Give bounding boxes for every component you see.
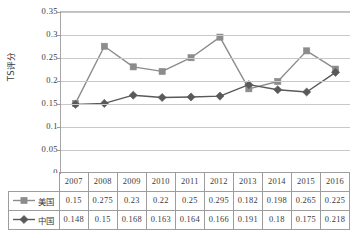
y-axis-tickmark	[57, 35, 61, 36]
data-point-marker	[158, 93, 166, 101]
table-header-row: 2007200820092010201120122013201420152016	[9, 173, 350, 192]
gridline	[61, 81, 350, 82]
gridline	[61, 58, 350, 59]
table-cell-value: 0.18	[262, 211, 291, 230]
gridline	[61, 104, 350, 105]
y-axis-tickmark	[57, 104, 61, 105]
table-cell-value: 0.225	[320, 192, 349, 211]
table-header-year: 2008	[88, 173, 117, 192]
data-point-marker	[187, 93, 195, 101]
table-row: 中国0.1480.150.1680.1630.1640.1660.1910.18…	[9, 211, 350, 230]
y-axis-tick-label: 0.25	[18, 53, 58, 62]
table-cell-value: 0.265	[291, 192, 320, 211]
y-axis-tickmark	[57, 81, 61, 82]
table-header-year: 2011	[175, 173, 204, 192]
y-axis-tick-label: 0.35	[18, 7, 58, 16]
legend-marker	[21, 197, 27, 203]
gridline	[61, 127, 350, 128]
table-cell-value: 0.295	[204, 192, 233, 211]
series-china	[71, 68, 339, 108]
y-axis-tickmark	[57, 12, 61, 13]
legend-item-china[interactable]: 中国	[9, 211, 60, 230]
series-usa	[72, 34, 338, 106]
table-cell-value: 0.23	[117, 192, 146, 211]
table-header-year: 2013	[233, 173, 262, 192]
legend-marker	[20, 215, 28, 223]
table-header-year: 2009	[117, 173, 146, 192]
y-axis-tickmark	[57, 127, 61, 128]
data-point-marker	[129, 91, 137, 99]
table-cell-value: 0.15	[88, 211, 117, 230]
table-cell-value: 0.218	[320, 211, 349, 230]
table-header-year: 2015	[291, 173, 320, 192]
table-cell-value: 0.164	[175, 211, 204, 230]
data-point-marker	[130, 64, 136, 70]
series-lines-svg	[61, 12, 350, 172]
table-cell-value: 0.148	[59, 211, 88, 230]
series-line	[75, 72, 335, 104]
y-axis-tick-label: 0.05	[18, 145, 58, 154]
data-point-marker	[303, 88, 311, 96]
legend-label: 美国	[38, 195, 55, 207]
table-cell-value: 0.275	[88, 192, 117, 211]
table-header-year: 2007	[59, 173, 88, 192]
table-row: 美国0.150.2750.230.220.250.2950.1820.1980.…	[9, 192, 350, 211]
y-axis-title: TS评分	[7, 31, 16, 101]
table-cell-value: 0.198	[262, 192, 291, 211]
chart-data-table: 2007200820092010201120122013201420152016…	[8, 172, 350, 230]
table-corner-cell	[9, 173, 60, 192]
line-chart-with-data-table: TS评分 00.050.10.150.20.250.30.35 20072008…	[0, 0, 358, 238]
y-axis-tick-label: 0.1	[18, 122, 58, 131]
table-cell-value: 0.182	[233, 192, 262, 211]
data-point-marker	[101, 43, 107, 49]
y-axis-tickmark	[57, 58, 61, 59]
legend-item-usa[interactable]: 美国	[9, 192, 60, 211]
gridline	[61, 150, 350, 151]
gridline	[61, 12, 350, 13]
table-cell-value: 0.163	[146, 211, 175, 230]
legend-square-marker-icon	[12, 196, 36, 205]
table-cell-value: 0.15	[59, 192, 88, 211]
y-axis-tick-label: 0.2	[18, 76, 58, 85]
data-point-marker	[304, 48, 310, 54]
plot-area	[60, 11, 350, 172]
table-cell-value: 0.166	[204, 211, 233, 230]
y-axis-tick-label: 0.3	[18, 30, 58, 39]
y-axis-tick-labels: 00.050.10.150.20.250.30.35	[18, 0, 58, 180]
y-axis-tickmark	[57, 150, 61, 151]
gridline	[61, 35, 350, 36]
table-cell-value: 0.25	[175, 192, 204, 211]
table-header-year: 2016	[320, 173, 349, 192]
y-axis-tick-label: 0.15	[18, 99, 58, 108]
table-header-year: 2014	[262, 173, 291, 192]
data-point-marker	[216, 92, 224, 100]
legend-diamond-marker-icon	[12, 215, 36, 224]
table-cell-value: 0.22	[146, 192, 175, 211]
table-header-year: 2010	[146, 173, 175, 192]
table-cell-value: 0.175	[291, 211, 320, 230]
table-cell-value: 0.168	[117, 211, 146, 230]
data-point-marker	[274, 86, 282, 94]
data-point-marker	[159, 68, 165, 74]
series-line	[75, 37, 335, 103]
table-cell-value: 0.191	[233, 211, 262, 230]
legend-label: 中国	[38, 214, 55, 226]
table-header-year: 2012	[204, 173, 233, 192]
